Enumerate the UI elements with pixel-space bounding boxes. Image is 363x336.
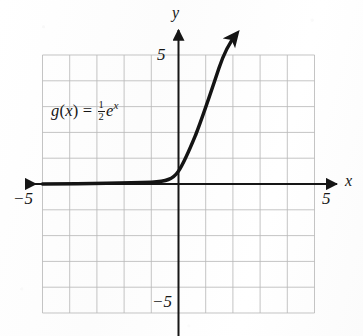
y-axis-name-label: y — [172, 4, 179, 22]
exponential-function-graph-figure: g(x) = 1 2 ex 5 −5 −5 5 y x — [0, 0, 363, 336]
exponent: x — [114, 99, 119, 111]
fraction-numerator: 1 — [98, 100, 105, 111]
y-axis-tick-label-negative-5: −5 — [152, 292, 172, 312]
y-axis-tick-label-5: 5 — [157, 45, 166, 65]
euler-base: e — [106, 101, 114, 120]
x-axis-tick-label-negative-5: −5 — [13, 189, 33, 209]
equals-sign: = — [83, 101, 93, 120]
x-axis-tick-label-5: 5 — [322, 189, 331, 209]
x-axis-name-label: x — [345, 172, 352, 190]
function-equation-annotation: g(x) = 1 2 ex — [51, 99, 119, 123]
graph-canvas — [0, 0, 363, 336]
one-half-fraction: 1 2 — [98, 100, 105, 123]
fraction-denominator: 2 — [98, 111, 105, 123]
function-variable: x — [65, 101, 73, 120]
